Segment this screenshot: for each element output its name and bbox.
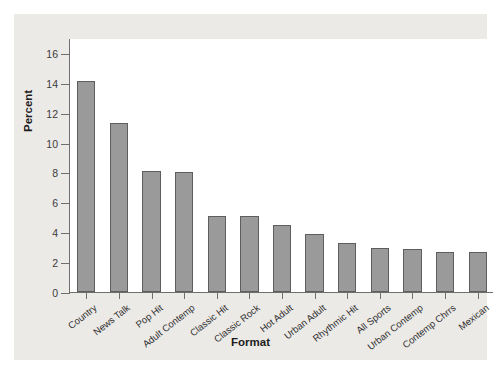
bar bbox=[77, 81, 95, 292]
y-tick-label: 14 bbox=[46, 78, 58, 90]
bar bbox=[469, 252, 487, 292]
y-tick-mark bbox=[61, 144, 70, 145]
y-tick-mark bbox=[61, 203, 70, 204]
x-tick-mark bbox=[217, 292, 218, 299]
bar bbox=[240, 216, 258, 292]
y-tick-mark bbox=[61, 173, 70, 174]
x-tick-mark bbox=[380, 292, 381, 299]
y-tick-label: 6 bbox=[52, 197, 58, 209]
y-tick-mark bbox=[61, 114, 70, 115]
bar bbox=[175, 172, 193, 292]
x-tick-mark bbox=[315, 292, 316, 299]
y-tick-label: 10 bbox=[46, 138, 58, 150]
y-tick-label: 16 bbox=[46, 48, 58, 60]
figure-background-card: Percent 0246810121416 CountryNews TalkPo… bbox=[14, 14, 487, 360]
bar bbox=[338, 243, 356, 292]
y-tick-label: 0 bbox=[52, 287, 58, 299]
plot-area: 0246810121416 CountryNews TalkPop HitAdu… bbox=[69, 39, 493, 293]
x-tick-mark bbox=[412, 292, 413, 299]
bar bbox=[305, 234, 323, 292]
bar bbox=[436, 252, 454, 292]
y-tick-label: 4 bbox=[52, 227, 58, 239]
x-tick-mark bbox=[347, 292, 348, 299]
y-axis-title: Percent bbox=[22, 90, 34, 132]
bar bbox=[208, 216, 226, 292]
bar bbox=[110, 123, 128, 292]
y-tick-mark bbox=[61, 54, 70, 55]
x-tick-mark bbox=[119, 292, 120, 299]
y-tick-mark bbox=[61, 233, 70, 234]
x-tick-mark bbox=[86, 292, 87, 299]
x-tick-mark bbox=[152, 292, 153, 299]
y-tick-mark bbox=[61, 263, 70, 264]
plot-inner: 0246810121416 CountryNews TalkPop HitAdu… bbox=[70, 39, 493, 292]
y-tick-mark bbox=[61, 84, 70, 85]
y-tick-label: 2 bbox=[52, 257, 58, 269]
y-tick-label: 12 bbox=[46, 108, 58, 120]
bar bbox=[403, 249, 421, 292]
x-tick-mark bbox=[249, 292, 250, 299]
x-tick-mark bbox=[478, 292, 479, 299]
y-tick-mark bbox=[61, 293, 70, 294]
bar bbox=[142, 171, 160, 292]
x-tick-mark bbox=[282, 292, 283, 299]
x-tick-mark bbox=[184, 292, 185, 299]
bar bbox=[273, 225, 291, 292]
figure: Percent 0246810121416 CountryNews TalkPo… bbox=[0, 0, 502, 378]
x-axis-title: Format bbox=[14, 336, 487, 348]
x-tick-mark bbox=[445, 292, 446, 299]
y-tick-label: 8 bbox=[52, 167, 58, 179]
bar bbox=[371, 248, 389, 292]
